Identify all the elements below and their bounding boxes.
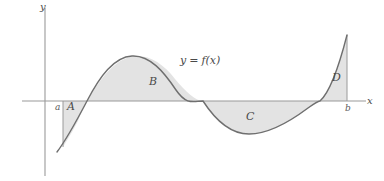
function-label-fx: f(x)	[201, 54, 220, 67]
lower-bound-label-a: a	[55, 103, 60, 112]
region-label-C: C	[246, 111, 254, 122]
upper-bound-label-b: b	[345, 104, 351, 113]
region-label-B: B	[149, 76, 157, 87]
region-D-fill	[320, 35, 347, 101]
region-label-D: D	[332, 72, 341, 83]
function-plot	[0, 0, 384, 181]
function-label: y=f(x)	[180, 55, 220, 66]
x-axis-label: x	[367, 96, 373, 106]
function-label-y: y	[180, 54, 186, 67]
function-label-equals: =	[189, 54, 198, 67]
region-C-fill	[203, 101, 320, 134]
region-label-A: A	[67, 101, 75, 112]
figure-canvas: y x a b A B C D y=f(x)	[0, 0, 384, 181]
y-axis-label: y	[40, 2, 46, 12]
